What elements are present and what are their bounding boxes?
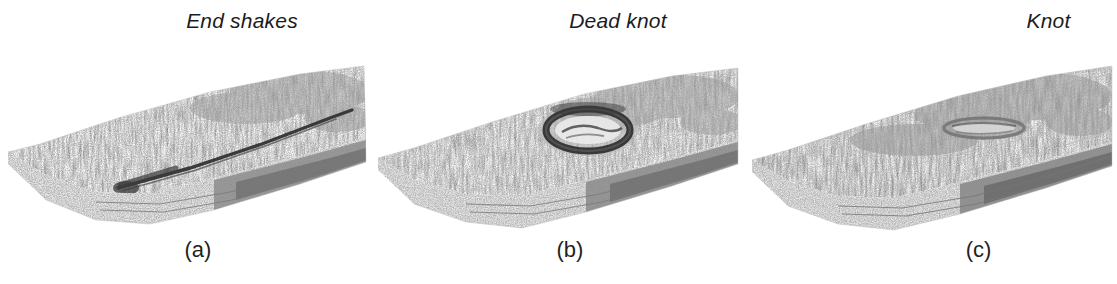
panel-dead-knot: Dead knot	[372, 0, 744, 284]
wood-defect-figure: End shakes	[0, 0, 1117, 284]
wood-specimen-photo-c	[744, 52, 1116, 232]
defect-title-a: End shakes	[0, 8, 428, 34]
defect-knot-c	[940, 116, 1028, 140]
wood-specimen-photo-b	[372, 52, 744, 232]
specimen-image-c	[744, 52, 1117, 232]
defect-title-c: Knot	[744, 8, 1117, 34]
wood-specimen-photo-a	[0, 52, 372, 232]
panel-knot: Knot	[744, 0, 1117, 284]
panel-caption-a: (a)	[0, 236, 384, 264]
specimen-image-b	[372, 52, 744, 232]
defect-dead-knot-b	[538, 102, 638, 156]
specimen-image-a	[0, 52, 372, 232]
panel-end-shakes: End shakes	[0, 0, 372, 284]
defect-title-b: Dead knot	[372, 8, 804, 34]
panel-caption-b: (b)	[372, 236, 756, 264]
panel-caption-c: (c)	[744, 236, 1117, 264]
